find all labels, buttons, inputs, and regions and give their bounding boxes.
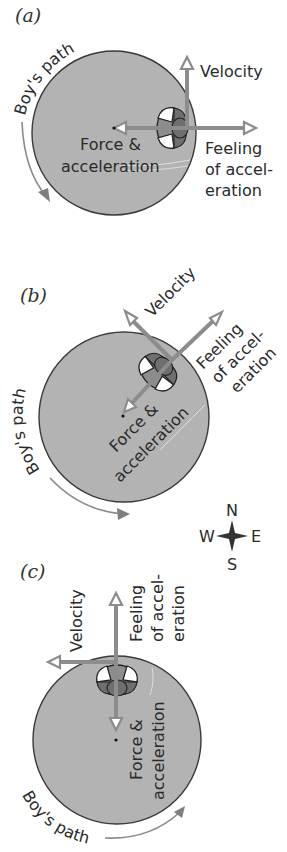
force-label-a-line1: Force &: [80, 135, 141, 154]
feeling-label-a-line2: of accel-: [205, 160, 273, 179]
feeling-label-a-line3: eration: [205, 181, 262, 200]
compass-north: N: [226, 501, 238, 520]
feeling-label-c-line3: eration: [169, 585, 188, 642]
compass-rose: N S W E: [199, 501, 261, 574]
panel-a: (a) Boy's path Velocity Force & accelera…: [10, 4, 273, 215]
path-arrowhead-a: [38, 188, 50, 202]
circular-motion-diagram: (a) Boy's path Velocity Force & accelera…: [0, 0, 287, 852]
compass-star-icon: [216, 520, 248, 552]
velocity-arrowhead-c: [48, 656, 60, 668]
panel-label-a: (a): [15, 4, 41, 26]
force-label-a-line2: acceleration: [61, 157, 160, 176]
compass-west: W: [199, 527, 215, 546]
center-dot-a: [112, 126, 115, 129]
path-label-b: Boy's path: [8, 386, 44, 478]
panel-b: (b) Boy's path Velocity Force & accelera…: [8, 263, 280, 520]
panel-label-b: (b): [20, 284, 47, 306]
feeling-arrowhead-c: [110, 593, 122, 605]
velocity-arrowhead-a: [181, 57, 193, 69]
panel-label-c: (c): [20, 560, 45, 582]
center-dot-c: [114, 738, 117, 741]
panel-c: (c) Boy's path Velocity Force & accelera…: [18, 560, 201, 848]
feeling-arrowhead-a: [244, 122, 256, 134]
path-arrowhead-b: [117, 508, 130, 520]
velocity-label-a: Velocity: [200, 62, 263, 81]
feeling-label-c-line1: Feeling: [127, 585, 146, 642]
center-dot-b: [121, 414, 124, 417]
compass-south: S: [227, 555, 237, 574]
velocity-label-b: Velocity: [141, 263, 199, 321]
velocity-label-c: Velocity: [67, 589, 86, 652]
feeling-label-a-line1: Feeling: [205, 139, 262, 158]
force-label-c-line1: Force &: [127, 719, 146, 780]
feeling-label-c-line2: of accel-: [148, 574, 167, 642]
force-label-c-line2: acceleration: [149, 701, 168, 800]
compass-east: E: [251, 527, 261, 546]
